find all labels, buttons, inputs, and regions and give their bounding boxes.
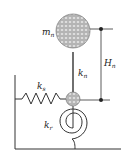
lateral-spring [15, 93, 66, 104]
rotational-spring [60, 106, 87, 149]
base-node-circle [66, 92, 80, 106]
mass-circle [56, 14, 90, 48]
mass-label: mn [42, 27, 55, 38]
neck-stiffness-label: kn [78, 68, 87, 79]
dimension-dot-bottom [99, 98, 103, 102]
rotational-spring-label: kr [44, 120, 53, 131]
mass-spring-model-diagram: mn Hn kn ks kr [0, 0, 138, 159]
lateral-spring-label: ks [37, 81, 46, 92]
height-label: Hn [103, 58, 116, 69]
dimension-dot-top [99, 27, 103, 31]
